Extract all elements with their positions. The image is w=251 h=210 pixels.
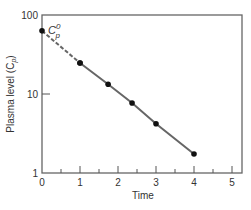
data-point <box>39 28 45 34</box>
x-tick-label: 1 <box>77 177 83 188</box>
y-axis-label: Plasma level (Cp) <box>5 55 18 132</box>
series-line <box>80 63 194 154</box>
y-axis-label-close: ) <box>5 55 16 58</box>
x-tick-label: 3 <box>153 177 159 188</box>
data-point <box>191 151 197 157</box>
data-point <box>105 81 111 87</box>
data-point <box>129 100 135 106</box>
cp0-annotation: C0p <box>48 22 61 40</box>
y-axis-tick-labels: 110100 <box>21 10 38 179</box>
x-tick-label: 4 <box>191 177 197 188</box>
plot-frame <box>42 15 242 173</box>
cp0-annotation-sub: p <box>54 31 60 40</box>
x-tick-label: 0 <box>39 177 45 188</box>
y-axis-label-main: Plasma level (C <box>5 63 16 133</box>
data-series <box>39 28 197 157</box>
y-tick-label: 10 <box>27 89 39 100</box>
data-point <box>77 60 83 66</box>
x-axis-tick-labels: 012345 <box>39 177 235 188</box>
y-tick-label: 1 <box>32 168 38 179</box>
y-tick-label: 100 <box>21 10 38 21</box>
x-tick-label: 2 <box>115 177 121 188</box>
data-point <box>153 121 159 127</box>
x-tick-label: 5 <box>229 177 235 188</box>
plasma-level-chart: 012345 110100 C0p Time Plasma level (Cp) <box>0 0 251 210</box>
cp0-annotation-sup: 0 <box>56 22 61 31</box>
x-axis-ticks <box>61 166 232 173</box>
x-axis-label: Time <box>132 190 154 201</box>
